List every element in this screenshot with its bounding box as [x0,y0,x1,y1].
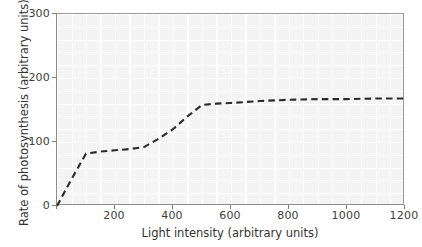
x-tick-label-1000: 1000 [332,209,361,222]
series-photosynthesis-rate [57,14,405,206]
x-tick-label-600: 600 [219,209,241,222]
curve-line [57,98,405,206]
tick-y-300 [52,13,56,14]
tick-x-0 [56,205,57,209]
tick-y-100 [52,141,56,142]
x-tick-label-400: 400 [161,209,183,222]
y-tick-label-100: 100 [28,135,50,148]
x-tick-label-800: 800 [277,209,299,222]
x-tick-label-1200: 1200 [390,209,419,222]
y-tick-label-0: 0 [43,199,50,212]
chart-figure: 200 400 600 800 1000 1200 300 200 100 0 … [0,0,422,247]
x-axis-label: Light intensity (arbitrary units) [56,226,404,240]
y-axis-label: Rate of photosynthesis (arbitrary units) [17,6,31,226]
y-tick-label-200: 200 [28,71,50,84]
tick-y-200 [52,77,56,78]
tick-y-0 [52,205,56,206]
plot-area [56,13,404,205]
y-tick-label-300: 300 [28,7,50,20]
x-tick-label-200: 200 [103,209,125,222]
